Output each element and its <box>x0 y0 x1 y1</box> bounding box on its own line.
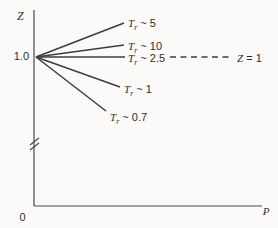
series-label-tr-1: Tr ~ 1 <box>124 82 152 98</box>
series-value: ~ 5 <box>137 17 156 29</box>
series-label-tr-0.7: Tr ~ 0.7 <box>110 110 147 126</box>
isotherm-line-tr-0.7 <box>36 57 106 111</box>
origin-tick-label: 0 <box>15 210 30 224</box>
isotherm-line-tr-5 <box>36 23 124 57</box>
isotherm-line-tr-10 <box>36 45 124 57</box>
series-value: ~ 2.5 <box>137 52 165 64</box>
y-axis-label: Z <box>17 9 24 23</box>
series-value: ~ 1 <box>133 83 152 95</box>
x-axis-label: P <box>258 204 274 218</box>
series-label-tr-5: Tr ~ 5 <box>128 16 156 32</box>
annotation-rest: = 1 <box>243 52 262 64</box>
series-value: ~ 0.7 <box>119 111 147 123</box>
series-label-tr-2.5: Tr ~ 2.5 <box>128 51 165 67</box>
isotherm-line-tr-1 <box>36 57 120 87</box>
compressibility-factor-chart: Tr ~ 5Tr ~ 10Tr ~ 2.5Tr ~ 1Tr ~ 0.7 Z 1.… <box>0 0 278 228</box>
y-tick-label: 1.0 <box>6 49 29 63</box>
z-equals-1-annotation: Z = 1 <box>237 51 262 65</box>
